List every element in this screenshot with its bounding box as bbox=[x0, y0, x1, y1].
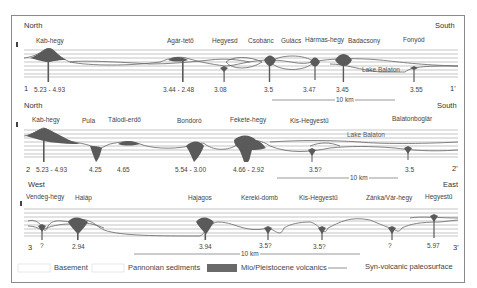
section-3-age: 5.97 bbox=[427, 243, 440, 250]
legend-paleosurface-label: Syn-volcanic paleosurface bbox=[365, 263, 453, 271]
section-3-locality: Zánka/Vár-hegy bbox=[366, 195, 412, 202]
section-2-locality: Kab-hegy bbox=[32, 117, 60, 124]
section-2-locality: Bondoró bbox=[177, 118, 202, 125]
legend-swatch-pannonian bbox=[92, 264, 124, 272]
section-3-direction-left: West bbox=[28, 181, 45, 189]
legend-basement-label: Basement bbox=[54, 264, 88, 272]
section-3-locality: Haláp bbox=[75, 195, 92, 202]
section-2-age: 4.25 bbox=[89, 167, 102, 174]
section-1-age: 3.5 bbox=[264, 87, 273, 94]
section-2-start-label: 2 bbox=[26, 166, 30, 174]
section-3-locality: Hajagos bbox=[188, 195, 212, 202]
section-3-locality: Hegyestű bbox=[425, 194, 452, 201]
section-2-locality: Fekete-hegy bbox=[230, 117, 266, 124]
section-3-age: 3.5? bbox=[259, 243, 272, 250]
section-2-age: 4.65 bbox=[117, 167, 130, 174]
section-3-locality: Kereki-domb bbox=[241, 195, 278, 202]
section-2-end-label: 2' bbox=[452, 165, 458, 173]
section-1-locality: Badacsony bbox=[348, 38, 380, 45]
section-2-direction-left: North bbox=[24, 102, 42, 110]
section-2-age: 3.5 bbox=[405, 167, 414, 174]
section-1-end-label: 1' bbox=[450, 85, 456, 93]
section-1-direction-right: South bbox=[435, 22, 455, 30]
section-1-locality: Hármas-hegy bbox=[305, 37, 344, 44]
section-1-age: 3.08 bbox=[214, 87, 227, 94]
section-1-locality: Hegyesd bbox=[212, 38, 238, 45]
section-1-locality: Csobánc bbox=[248, 38, 274, 45]
section-2-lake-label: Lake Balaton bbox=[347, 132, 385, 139]
section-1-lake-label: Lake Balaton bbox=[362, 67, 400, 74]
section-2-scale-bar-icon bbox=[16, 122, 18, 127]
section-1-direction-left: North bbox=[24, 22, 42, 30]
section-1-age: 5.23 - 4.93 bbox=[34, 87, 65, 94]
section-1-age: 3.47 bbox=[303, 87, 316, 94]
section-3-locality: Vendeg-hegy bbox=[26, 194, 64, 201]
legend-volcanics-label: Mio/Pleistocene volcanics bbox=[241, 264, 327, 272]
section-3-age: 3.94 bbox=[199, 244, 212, 251]
section-3-end-label: 3' bbox=[453, 244, 459, 252]
section-1-locality: Fonyód bbox=[403, 37, 425, 44]
section-2-locality: Pula bbox=[82, 118, 95, 125]
section-3-scale-bar-icon bbox=[20, 201, 22, 206]
section-2-locality: Kis-Hegyestű bbox=[290, 118, 329, 125]
section-1-scale-bar-icon bbox=[16, 42, 18, 47]
section-2-age: 5.54 - 3.00 bbox=[175, 167, 206, 174]
section-2-direction-right: South bbox=[437, 102, 457, 110]
section-3-age: ? bbox=[40, 243, 44, 250]
section-2-locality: Tálodi-erdő bbox=[108, 117, 141, 124]
section-1-locality: Agár-tető bbox=[167, 38, 194, 45]
section-3-age: ? bbox=[388, 243, 392, 250]
section-1-age: 3.44 - 2.48 bbox=[163, 87, 194, 94]
section-1-scale-label: 10 km bbox=[335, 97, 355, 104]
section-3-start-label: 3 bbox=[28, 244, 32, 252]
section-3-age: 3.5? bbox=[313, 244, 326, 251]
legend-swatch-basement bbox=[18, 264, 50, 272]
section-3-scale-label: 10 km bbox=[240, 251, 260, 258]
section-3-locality: Kis-Hegyestű bbox=[299, 195, 338, 202]
legend-swatch-volcanics bbox=[207, 264, 237, 272]
section-2-age: 3.5? bbox=[309, 167, 322, 174]
section-2-locality: Balatonboglár bbox=[392, 116, 432, 123]
section-1-locality: Kab-hegy bbox=[36, 38, 64, 45]
section-3-age: 2.94 bbox=[72, 244, 85, 251]
section-3-direction-right: East bbox=[443, 181, 458, 189]
section-1-start-label: 1 bbox=[24, 85, 28, 93]
section-2-age: 5.23 - 4.93 bbox=[36, 167, 67, 174]
section-2-age: 4.66 - 2.92 bbox=[233, 167, 264, 174]
section-1-age: 3.45 bbox=[336, 87, 349, 94]
section-2-scale-label: 10 km bbox=[349, 175, 369, 182]
section-1-locality: Gulács bbox=[281, 38, 301, 45]
section-1-age: 3.55 bbox=[410, 87, 423, 94]
legend-pannonian-label: Pannonian sediments bbox=[128, 264, 200, 272]
